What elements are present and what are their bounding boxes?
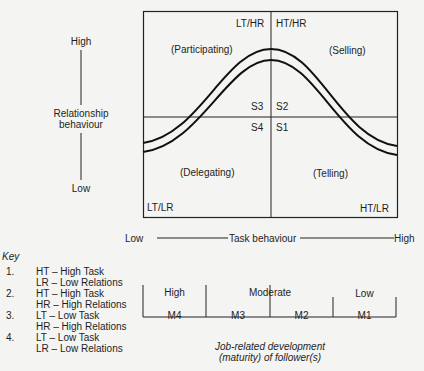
corner-lt-hr: LT/HR [236,18,264,29]
corner-ht-hr: HT/HR [276,18,307,29]
key-item-number: 2. [6,288,14,299]
label-s1: S1 [276,122,288,133]
outer-curve [143,49,397,146]
maturity-caption-line1: Job-related development [190,341,350,352]
maturity-moderate: Moderate [240,287,300,298]
key-item-line2: HR – High Relations [36,299,127,310]
key-item-line1: LT – Low Task [36,332,99,343]
key-item-number: 3. [6,310,14,321]
y-axis-high: High [61,36,101,47]
label-delegating: (Delegating) [180,167,234,178]
y-axis-low: Low [61,183,101,194]
y-axis-label-line1: Relationship [46,108,116,119]
key-item-line2: LR – Low Relations [36,277,123,288]
inner-curve [143,60,397,155]
label-telling: (Telling) [313,168,348,179]
label-s3: S3 [251,101,263,112]
x-axis-low: Low [125,233,143,244]
key-item-number: 4. [6,332,14,343]
label-selling: (Selling) [329,45,366,56]
maturity-high: High [143,287,206,298]
key-item-number: 1. [6,266,14,277]
maturity-cell-m2: M2 [270,310,333,321]
label-s4: S4 [251,122,263,133]
x-axis-label: Task behaviour [229,233,296,244]
label-s2: S2 [276,101,288,112]
corner-lt-lr: LT/LR [147,202,174,213]
maturity-caption-line2: (maturity) of follower(s) [190,352,350,363]
key-item-line2: HR – High Relations [36,321,127,332]
key-item-line1: LT – Low Task [36,310,99,321]
key-item-line1: HT – High Task [36,266,104,277]
label-participating: (Participating) [171,44,233,55]
x-axis-high: High [394,233,415,244]
maturity-cell-m3: M3 [206,310,270,321]
key-title: Key [2,251,19,262]
maturity-low: Low [333,288,396,299]
key-item-line1: HT – High Task [36,288,104,299]
maturity-cell-m1: M1 [333,310,396,321]
y-axis-label-line2: behaviour [46,119,116,130]
corner-ht-lr: HT/LR [360,203,389,214]
maturity-cell-m4: M4 [143,310,206,321]
key-item-line2: LR – Low Relations [36,343,123,354]
